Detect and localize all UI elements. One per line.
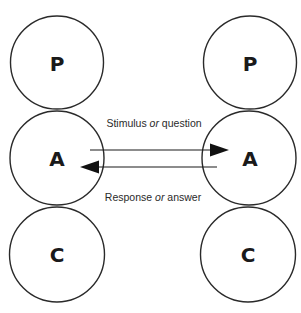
- stimulus-label-start: Stimulus: [106, 117, 149, 129]
- left-person: P A C: [10, 16, 105, 302]
- stimulus-label-end: question: [159, 117, 202, 129]
- right-child-label: C: [241, 243, 256, 267]
- left-parent-label: P: [50, 52, 65, 76]
- response-label-end: answer: [164, 191, 201, 203]
- left-child-label: C: [50, 243, 65, 267]
- right-parent-state: P: [204, 16, 297, 109]
- stimulus-label: Stimulus or question: [106, 117, 201, 129]
- right-adult-state: A: [202, 111, 296, 205]
- stimulus-transaction: Stimulus or question: [90, 117, 229, 157]
- right-person: P A C: [201, 16, 297, 302]
- left-child-state: C: [10, 207, 105, 302]
- left-adult-label: A: [49, 147, 65, 171]
- response-label-start: Response: [105, 191, 155, 203]
- left-parent-state: P: [11, 16, 104, 109]
- right-adult-label: A: [242, 147, 258, 171]
- right-parent-label: P: [243, 52, 258, 76]
- pac-transaction-diagram: P A C P A C Stimulus or question: [0, 0, 301, 313]
- response-arrowhead-icon: [80, 161, 99, 174]
- left-adult-state: A: [10, 111, 104, 205]
- right-child-state: C: [201, 207, 296, 302]
- stimulus-arrowhead-icon: [210, 144, 229, 157]
- response-label: Response or answer: [105, 191, 202, 203]
- response-transaction: Response or answer: [80, 161, 217, 204]
